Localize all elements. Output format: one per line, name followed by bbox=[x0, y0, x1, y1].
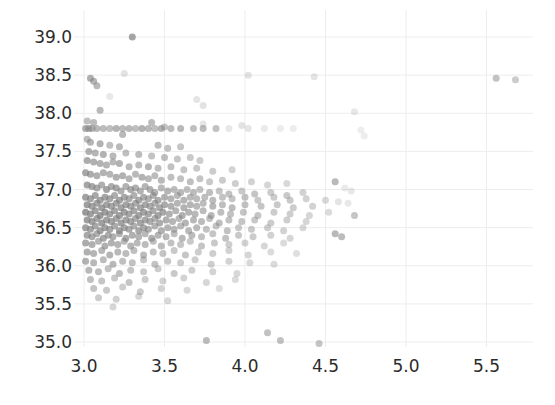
data-point bbox=[219, 201, 226, 208]
data-point bbox=[245, 72, 252, 79]
data-point bbox=[233, 270, 240, 277]
data-point bbox=[167, 239, 174, 246]
data-point bbox=[159, 209, 166, 216]
data-point bbox=[283, 217, 290, 224]
data-point bbox=[119, 284, 126, 291]
data-point bbox=[126, 163, 133, 170]
data-point bbox=[164, 297, 171, 304]
data-point bbox=[206, 215, 213, 222]
data-point bbox=[82, 258, 89, 265]
data-point bbox=[119, 125, 126, 132]
data-point bbox=[155, 142, 162, 149]
data-point bbox=[134, 239, 141, 246]
data-point bbox=[98, 278, 105, 285]
data-point bbox=[219, 177, 226, 184]
data-point bbox=[351, 108, 358, 115]
data-point bbox=[493, 75, 500, 82]
y-tick-label: 36.0 bbox=[18, 257, 72, 274]
y-tick-label: 37.5 bbox=[18, 143, 72, 160]
data-point bbox=[103, 287, 110, 294]
data-point bbox=[270, 261, 277, 268]
data-point bbox=[87, 171, 94, 178]
data-point bbox=[142, 276, 149, 283]
data-point bbox=[361, 133, 368, 140]
y-tick-label: 37.0 bbox=[18, 181, 72, 198]
data-point bbox=[129, 34, 136, 41]
data-point bbox=[119, 131, 126, 138]
data-point bbox=[151, 172, 158, 179]
data-point bbox=[192, 210, 199, 217]
data-point bbox=[171, 230, 178, 237]
data-point bbox=[177, 241, 184, 248]
data-point bbox=[103, 162, 110, 169]
data-point bbox=[222, 235, 229, 242]
data-point bbox=[159, 278, 166, 285]
data-point bbox=[171, 186, 178, 193]
data-point bbox=[93, 125, 100, 132]
data-point bbox=[209, 168, 216, 175]
data-point bbox=[250, 233, 257, 240]
data-point bbox=[209, 197, 216, 204]
y-tick-label: 38.0 bbox=[18, 105, 72, 122]
data-point bbox=[132, 171, 139, 178]
data-point bbox=[90, 285, 97, 292]
data-point bbox=[163, 233, 170, 240]
data-point bbox=[138, 125, 145, 132]
data-point bbox=[89, 241, 96, 248]
data-point bbox=[155, 165, 162, 172]
data-point bbox=[303, 195, 310, 202]
data-point bbox=[203, 337, 210, 344]
data-point bbox=[164, 258, 171, 265]
data-point bbox=[180, 197, 187, 204]
data-point bbox=[287, 235, 294, 242]
data-point bbox=[322, 197, 329, 204]
data-point bbox=[109, 233, 116, 240]
data-point bbox=[200, 200, 207, 207]
data-point bbox=[196, 186, 203, 193]
data-point bbox=[280, 239, 287, 246]
data-point bbox=[145, 125, 152, 132]
data-point bbox=[100, 151, 107, 158]
data-point bbox=[264, 329, 271, 336]
data-point bbox=[140, 256, 147, 263]
data-point bbox=[100, 256, 107, 263]
data-point bbox=[348, 188, 355, 195]
data-point bbox=[254, 197, 261, 204]
data-point bbox=[225, 125, 232, 132]
data-point bbox=[135, 293, 142, 300]
data-point bbox=[142, 230, 149, 237]
data-point bbox=[95, 294, 102, 301]
data-point bbox=[129, 232, 136, 239]
data-point bbox=[109, 303, 116, 310]
data-point bbox=[158, 125, 165, 132]
data-point bbox=[274, 201, 281, 208]
data-point bbox=[206, 178, 213, 185]
data-point bbox=[182, 252, 189, 259]
data-point bbox=[106, 171, 113, 178]
y-tick-label: 35.0 bbox=[18, 334, 72, 351]
data-point bbox=[264, 224, 271, 231]
data-point bbox=[200, 207, 207, 214]
data-point bbox=[209, 230, 216, 237]
y-tick-label: 35.5 bbox=[18, 295, 72, 312]
data-point bbox=[229, 195, 236, 202]
data-point bbox=[100, 169, 107, 176]
data-point bbox=[85, 148, 92, 155]
data-point bbox=[261, 242, 268, 249]
data-point bbox=[106, 93, 113, 100]
data-point bbox=[196, 175, 203, 182]
data-point bbox=[261, 125, 268, 132]
data-point bbox=[225, 217, 232, 224]
data-point bbox=[161, 154, 168, 161]
data-point bbox=[109, 159, 116, 166]
data-point bbox=[188, 232, 195, 239]
data-point-layer bbox=[82, 34, 519, 348]
data-point bbox=[167, 195, 174, 202]
data-point bbox=[158, 177, 165, 184]
data-point bbox=[106, 252, 113, 259]
x-tick-label: 5.0 bbox=[392, 358, 419, 375]
x-tick-label: 4.5 bbox=[312, 358, 339, 375]
x-tick-label: 5.5 bbox=[473, 358, 500, 375]
data-point bbox=[193, 96, 200, 103]
data-point bbox=[299, 189, 306, 196]
